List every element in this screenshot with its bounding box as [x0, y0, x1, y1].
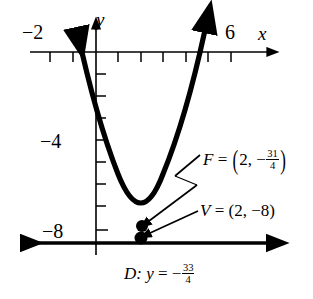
directrix-fraction-numerator: 33: [182, 262, 195, 273]
directrix-fraction: 334: [182, 262, 195, 285]
focus-fraction: 314: [266, 148, 279, 171]
x-axis: [30, 52, 268, 62]
y-tick-label-neg4: −4: [40, 131, 61, 151]
x-axis-label: x: [258, 24, 266, 43]
vertex-point: [135, 232, 148, 245]
vertex-name: V: [200, 201, 210, 220]
directrix-annotation-label: D: y = −334: [124, 262, 195, 285]
y-axis-label: y: [96, 10, 104, 29]
focus-fraction-denominator: 4: [266, 159, 279, 171]
focus-minus-sign: −: [256, 150, 266, 169]
focus-point: [136, 220, 148, 232]
focus-name: F: [203, 150, 213, 169]
focus-annotation-label: F = (2, −314): [203, 148, 287, 171]
x-axis-ticks: [50, 52, 231, 62]
focus-equals: =: [218, 150, 228, 169]
x-tick-label-6: 6: [225, 22, 235, 42]
directrix-variable: y: [146, 264, 154, 283]
focus-fraction-numerator: 31: [266, 148, 279, 159]
focus-x-value: 2,: [239, 150, 252, 169]
focus-close-paren: ): [280, 146, 286, 174]
y-axis-ticks: [96, 74, 108, 230]
directrix-fraction-denominator: 4: [182, 273, 195, 285]
vertex-equals: =: [215, 201, 225, 220]
x-tick-label-neg2: −2: [22, 22, 43, 42]
parabola-figure: −2 6 x y −4 −8 F = (2, −314) V = (2, −8)…: [0, 0, 313, 299]
focus-open-paren: (: [232, 146, 238, 174]
vertex-coordinates: (2, −8): [228, 201, 274, 220]
directrix-name: D:: [124, 264, 142, 283]
directrix-equals: =: [158, 264, 168, 283]
vertex-annotation-label: V = (2, −8): [200, 202, 275, 219]
y-tick-label-neg8: −8: [42, 221, 63, 241]
directrix-minus-sign: −: [172, 264, 182, 283]
